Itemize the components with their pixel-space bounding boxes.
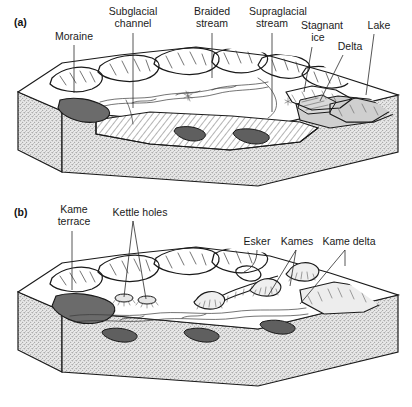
- label-kames: Kames: [281, 235, 314, 247]
- glacial-landforms-figure: (a): [0, 0, 412, 407]
- label-braided-stream-line2: stream: [196, 17, 228, 29]
- label-kame-terrace-line1: Kame: [60, 203, 88, 215]
- label-kame-terrace-line2: terrace: [58, 215, 91, 227]
- label-esker: Esker: [244, 235, 271, 247]
- label-kame-delta: Kame delta: [322, 235, 375, 247]
- label-moraine: Moraine: [55, 30, 93, 42]
- label-stagnant-ice-line2: ice: [311, 31, 325, 43]
- label-delta: Delta: [338, 40, 363, 52]
- panel-a-letter: (a): [14, 16, 27, 28]
- label-subglacial-channel-line2: channel: [115, 17, 152, 29]
- label-subglacial-channel-line1: Subglacial: [109, 5, 157, 17]
- label-kettle-holes: Kettle holes: [113, 206, 168, 218]
- panel-b-letter: (b): [14, 206, 27, 218]
- label-stagnant-ice-line1: Stagnant: [301, 19, 343, 31]
- figure-canvas: (a): [0, 0, 412, 407]
- label-supraglacial-stream-line1: Supraglacial: [249, 5, 307, 17]
- label-supraglacial-stream-line2: stream: [256, 17, 288, 29]
- label-lake: Lake: [368, 19, 391, 31]
- label-braided-stream-line1: Braided: [194, 5, 230, 17]
